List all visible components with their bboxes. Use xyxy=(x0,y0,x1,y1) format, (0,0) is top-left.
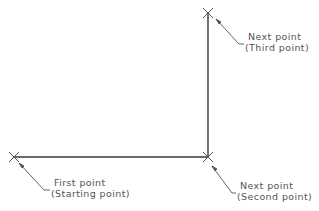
first-point-label-line1: First point xyxy=(54,177,106,188)
leader-arrowhead-icon xyxy=(19,163,24,168)
third-point-label-line1: Next point xyxy=(248,31,301,42)
third-point-label-line2: (Third point) xyxy=(245,42,309,53)
leader-arrowhead-icon xyxy=(216,19,221,24)
line-drawing-diagram: First point (Starting point) Next point … xyxy=(0,0,319,211)
third-point-leader xyxy=(216,19,244,44)
second-point-label-line1: Next point xyxy=(240,180,293,191)
second-point-leader xyxy=(212,166,236,193)
second-point-label-line2: (Second point) xyxy=(237,191,312,202)
first-point-label-line2: (Starting point) xyxy=(51,188,130,199)
leader-arrowhead-icon xyxy=(212,166,217,171)
first-point-leader xyxy=(19,163,50,190)
